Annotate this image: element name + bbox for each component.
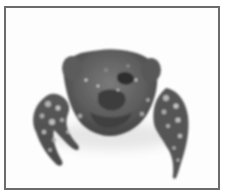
photo-frame: [4, 6, 220, 190]
figure-canvas: [0, 0, 225, 194]
crab-photo: [6, 8, 218, 188]
crab-body-group: [33, 49, 188, 179]
